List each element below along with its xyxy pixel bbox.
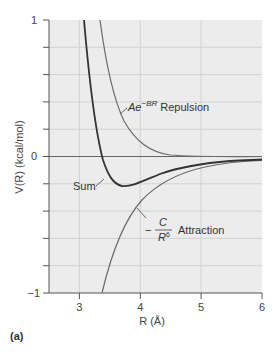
y-tick-label-neg1: −1 [27,287,40,299]
svg-text:Attraction: Attraction [178,224,224,236]
sum-annotation: Sum [73,180,96,192]
x-ticks [79,293,262,299]
panel-label: (a) [10,330,23,342]
y-tick-label-1: 1 [31,14,37,26]
y-ticks [43,20,49,293]
svg-text:C: C [159,216,167,228]
repulsion-annotation: Ae−BRRepulsion [127,99,209,113]
x-axis-label: R (Å) [139,315,165,327]
y-axis-label: V(R) (kcal/mol) [13,120,25,193]
svg-text:−: − [145,224,151,236]
potential-energy-chart: 1 0 −1 3 4 5 6 R (Å) V(R) (kcal/mol) Ae−… [0,0,278,363]
x-tick-label-4: 4 [137,301,143,313]
x-tick-label-5: 5 [198,301,204,313]
x-tick-label-3: 3 [76,301,82,313]
x-tick-label-6: 6 [259,301,265,313]
y-tick-label-0: 0 [31,150,37,162]
